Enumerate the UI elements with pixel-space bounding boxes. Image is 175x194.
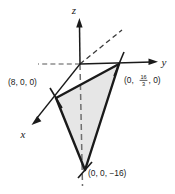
z-intercept-label: (0, 0, −16)	[88, 168, 127, 178]
y-axis-label: y	[161, 56, 167, 68]
y-intercept-fraction-numerator: 16	[140, 74, 146, 80]
figure-svg: z y x (8, 0, 0) (0, 16 3 , 0) (0, 0, −16…	[0, 0, 175, 194]
x-axis-arrowhead	[32, 116, 42, 125]
y-intercept-label-suffix: , 0)	[149, 75, 161, 85]
x-intercept-label: (8, 0, 0)	[8, 77, 37, 87]
y-axis	[80, 62, 152, 64]
x-axis-label: x	[20, 128, 26, 140]
y-intercept-label-prefix: (0,	[124, 75, 134, 85]
coordinate-figure: z y x (8, 0, 0) (0, 16 3 , 0) (0, 0, −16…	[0, 0, 175, 194]
z-axis-arrowhead	[76, 18, 82, 28]
y-intercept-tick	[114, 52, 124, 76]
z-axis-label: z	[71, 4, 77, 16]
z-axis	[80, 25, 81, 64]
y-intercept-label: (0, 16 3 , 0)	[124, 74, 161, 88]
y-intercept-fraction-denominator: 3	[142, 81, 145, 87]
negative-x-axis-dashed	[80, 30, 122, 64]
y-axis-arrowhead	[149, 59, 159, 65]
